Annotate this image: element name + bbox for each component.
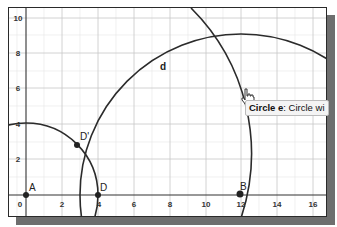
- svg-text:4: 4: [16, 120, 21, 129]
- label-d-prime: D': [80, 131, 89, 142]
- label-d: D: [100, 182, 107, 193]
- label-a: A: [29, 182, 36, 193]
- svg-text:6: 6: [16, 84, 21, 93]
- object-tooltip: Circle e: Circle wi: [245, 100, 329, 116]
- label-b: B: [240, 181, 247, 192]
- svg-text:10: 10: [202, 200, 211, 209]
- y-axis-labels: 10 8 6 4 2: [14, 14, 23, 164]
- svg-text:8: 8: [168, 200, 173, 209]
- svg-text:14: 14: [273, 200, 282, 209]
- svg-text:2: 2: [60, 200, 65, 209]
- x-axis-labels: 0 2 4 6 8 10 12 14 16: [18, 200, 318, 209]
- svg-text:6: 6: [132, 200, 137, 209]
- svg-text:8: 8: [16, 49, 21, 58]
- svg-text:0: 0: [18, 200, 23, 209]
- svg-text:2: 2: [16, 155, 21, 164]
- point-d-prime[interactable]: [74, 142, 80, 148]
- svg-text:16: 16: [309, 200, 318, 209]
- label-circle-d: d: [160, 61, 166, 72]
- svg-text:10: 10: [14, 14, 23, 23]
- circle-d[interactable]: [80, 34, 327, 217]
